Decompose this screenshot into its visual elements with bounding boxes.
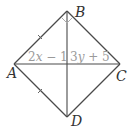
rhombus-diagram: 2x − 1 3y + 5 B A C D [0,0,134,131]
vertex-label-d: D [70,113,82,129]
side-cd [67,64,120,117]
segment-label-2x-minus-1: 2x − 1 [28,50,68,64]
vertex-label-c: C [116,68,127,84]
segment-label-3y-plus-5: 3y + 5 [70,50,110,64]
vertex-label-a: A [5,65,17,81]
vertex-label-b: B [74,4,85,20]
